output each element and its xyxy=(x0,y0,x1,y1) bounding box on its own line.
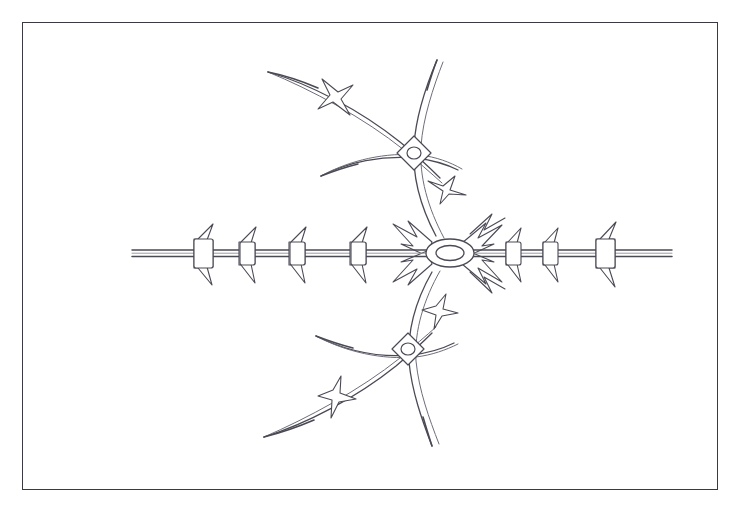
upper-arc-branch xyxy=(268,72,462,183)
right-barb-group xyxy=(506,222,616,287)
page-root xyxy=(0,0,745,507)
central-hub-ring xyxy=(426,239,474,267)
lower-arc-branch xyxy=(264,327,458,437)
drawing-group xyxy=(132,60,672,446)
upper-arc-barb xyxy=(318,79,353,115)
drawing-canvas xyxy=(0,0,745,507)
lower-stem-barb xyxy=(422,294,458,329)
left-barb-group xyxy=(194,224,367,285)
barbed-wire-drawing xyxy=(0,0,745,507)
upper-stem-barb xyxy=(428,176,466,204)
